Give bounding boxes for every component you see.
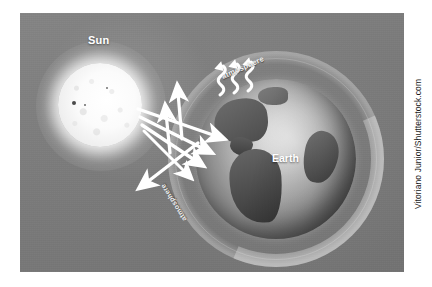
sunspot: [84, 104, 86, 106]
sun-icon: [58, 63, 142, 147]
sunspot: [72, 101, 76, 105]
earth-label: Earth: [272, 152, 299, 164]
sun-label: Sun: [88, 34, 109, 46]
photo-credit: Vitoriano Junior/Shutterstock.com: [404, 0, 432, 287]
sunspot: [106, 87, 108, 89]
photo-credit-text: Vitoriano Junior/Shutterstock.com: [413, 78, 423, 208]
greenhouse-effect-figure: Sun Earth atmosphere atmosphere Vitorian…: [0, 0, 432, 287]
sun-granulation-texture: [58, 63, 142, 147]
illustration-plate: Sun Earth atmosphere atmosphere: [20, 13, 404, 272]
